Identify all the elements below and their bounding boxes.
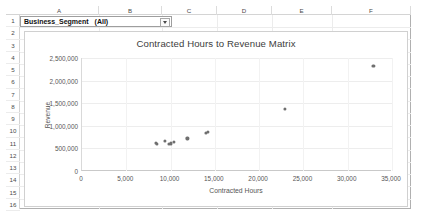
scatter-point[interactable] (173, 140, 176, 143)
x-axis-tick-label: 30,000 (337, 175, 357, 182)
row-header-16[interactable]: 16 (6, 199, 20, 211)
row-header-11[interactable]: 11 (6, 138, 20, 150)
column-header-row: A B C D E F (6, 6, 411, 15)
y-axis-tick-label: 2,000,000 (26, 77, 78, 84)
row-header-9[interactable]: 9 (6, 113, 20, 125)
y-axis-tick-label: 2,500,000 (26, 55, 78, 62)
y-axis-ticks: 0500,0001,000,0001,500,0002,000,0002,500… (25, 58, 78, 171)
pivot-filter-selected-value: (All) (89, 18, 109, 25)
plot-gridline-vertical (215, 58, 216, 171)
column-header-b[interactable]: B (99, 6, 162, 15)
x-axis-tick-label: 15,000 (204, 175, 224, 182)
row-header-10[interactable]: 10 (6, 125, 20, 137)
row-header-3[interactable]: 3 (6, 40, 20, 52)
plot-gridline-horizontal (82, 103, 392, 104)
plot-area[interactable] (81, 58, 391, 171)
row-header-6[interactable]: 6 (6, 76, 20, 88)
row-header-7[interactable]: 7 (6, 89, 20, 101)
row-header-4[interactable]: 4 (6, 52, 20, 64)
pivot-filter-control[interactable]: Business_Segment (All) (20, 16, 172, 27)
x-axis-tick-label: 35,000 (381, 175, 401, 182)
pivot-filter-field-label: Business_Segment (21, 18, 89, 25)
scatter-point[interactable] (163, 140, 166, 143)
scatter-point[interactable] (372, 65, 375, 68)
chart-title: Contracted Hours to Revenue Matrix (25, 38, 407, 49)
plot-gridline-horizontal (82, 126, 392, 127)
column-header-c[interactable]: C (162, 6, 217, 15)
x-axis-tick-label: 25,000 (293, 175, 313, 182)
scatter-point[interactable] (156, 142, 159, 145)
row-header-14[interactable]: 14 (6, 174, 20, 186)
scatter-point[interactable] (207, 131, 210, 134)
x-axis-title: Contracted Hours (81, 187, 391, 194)
gridline-horizontal (20, 27, 411, 28)
x-axis-tick-label: 10,000 (160, 175, 180, 182)
row-header-12[interactable]: 12 (6, 150, 20, 162)
plot-gridline-vertical (303, 58, 304, 171)
scatter-chart[interactable]: Contracted Hours to Revenue Matrix Reven… (24, 31, 408, 207)
plot-gridline-vertical (259, 58, 260, 171)
row-header-8[interactable]: 8 (6, 101, 20, 113)
y-axis-tick-label: 1,000,000 (26, 122, 78, 129)
chevron-down-icon[interactable] (160, 18, 170, 27)
row-header-13[interactable]: 13 (6, 162, 20, 174)
plot-gridline-vertical (126, 58, 127, 171)
column-header-a[interactable]: A (20, 6, 99, 15)
plot-gridline-vertical (348, 58, 349, 171)
y-axis-tick-label: 0 (26, 168, 78, 175)
scatter-point[interactable] (283, 107, 286, 110)
row-header-2[interactable]: 2 (6, 27, 20, 39)
x-axis-ticks: 05,00010,00015,00020,00025,00030,00035,0… (81, 175, 391, 185)
plot-gridline-vertical (171, 58, 172, 171)
scatter-point[interactable] (186, 137, 189, 140)
x-axis-tick-label: 5,000 (117, 175, 133, 182)
x-axis-tick-label: 0 (79, 175, 83, 182)
plot-gridline-horizontal (82, 58, 392, 59)
column-header-f[interactable]: F (332, 6, 411, 15)
row-header-5[interactable]: 5 (6, 64, 20, 76)
row-header-1[interactable]: 1 (6, 15, 20, 27)
plot-gridline-horizontal (82, 81, 392, 82)
column-header-d[interactable]: D (217, 6, 272, 15)
plot-gridline-vertical (392, 58, 393, 171)
y-axis-tick-label: 500,000 (26, 145, 78, 152)
x-axis-tick-label: 20,000 (248, 175, 268, 182)
worksheet: A B C D E F 1 2 3 4 5 6 7 8 9 10 11 12 1… (0, 0, 421, 221)
row-header-15[interactable]: 15 (6, 187, 20, 199)
plot-gridline-horizontal (82, 148, 392, 149)
column-header-e[interactable]: E (272, 6, 332, 15)
y-axis-tick-label: 1,500,000 (26, 100, 78, 107)
